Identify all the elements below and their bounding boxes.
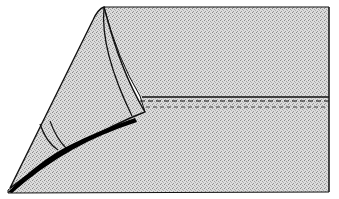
fabric-illustration	[0, 0, 339, 199]
fabric-drawing	[0, 0, 339, 199]
